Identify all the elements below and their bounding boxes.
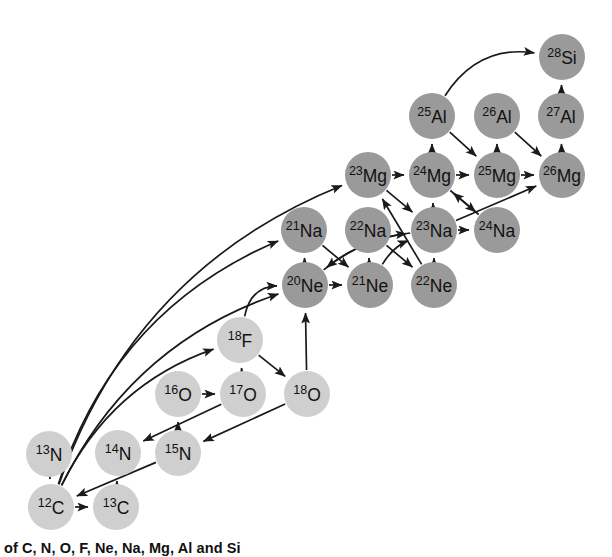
mass-number: 23 [349, 164, 363, 178]
nuclide-node-na23: 23Na [411, 207, 457, 253]
nuclide-node-layer: 12C13C13N14N15N16O17O18O18F20Ne21Ne22Ne2… [26, 34, 585, 530]
nuclide-node-o18: 18O [284, 371, 330, 417]
scan-bleed-artifact-line1 [196, 18, 200, 35]
mass-number: 24 [413, 164, 427, 178]
nuclide-node-na22: 22Na [345, 207, 391, 253]
mass-number: 24 [479, 219, 493, 233]
element-symbol: Na [364, 221, 387, 241]
element-symbol: Na [493, 221, 516, 241]
mass-number: 21 [286, 219, 300, 233]
element-symbol: N [119, 444, 132, 464]
mass-number: 25 [478, 164, 492, 178]
nuclide-node-mg23: 23Mg [345, 152, 391, 198]
mass-number: 22 [416, 274, 430, 288]
element-symbol: Ne [430, 276, 452, 296]
element-symbol: Al [560, 107, 576, 127]
element-symbol: O [178, 385, 192, 405]
element-symbol: O [243, 385, 257, 405]
mass-number: 20 [287, 274, 301, 288]
reaction-arrow [515, 132, 541, 156]
nuclide-node-n13: 13N [26, 431, 72, 477]
mass-number: 27 [546, 105, 560, 119]
element-symbol: O [307, 385, 321, 405]
mass-number: 14 [105, 442, 119, 456]
element-symbol: F [242, 331, 253, 351]
mass-number: 18 [293, 383, 307, 397]
reaction-arrow [445, 52, 534, 96]
mass-number: 13 [36, 443, 50, 457]
element-symbol: Ne [301, 276, 323, 296]
nuclide-node-mg26: 26Mg [539, 152, 585, 198]
reaction-arrow [386, 190, 412, 212]
reaction-network-diagram: 12C13C13N14N15N16O17O18O18F20Ne21Ne22Ne2… [0, 0, 612, 557]
nuclide-node-mg24: 24Mg [409, 152, 455, 198]
reaction-arrow [450, 191, 475, 212]
nuclide-node-ne21: 21Ne [347, 262, 393, 308]
element-symbol: N [179, 444, 192, 464]
mass-number: 25 [417, 105, 431, 119]
element-symbol: Mg [427, 166, 451, 186]
element-symbol: Si [561, 48, 577, 68]
mass-number: 12 [38, 496, 52, 510]
nuclide-node-al27: 27Al [538, 93, 584, 139]
mass-number: 15 [165, 442, 179, 456]
nuclide-node-na24: 24Na [474, 207, 520, 253]
element-symbol: Mg [363, 166, 387, 186]
mass-number: 23 [416, 219, 430, 233]
scan-bleed-artifact-line2 [214, 40, 218, 57]
mass-number: 26 [543, 164, 557, 178]
figure-caption: of C, N, O, F, Ne, Na, Mg, Al and Si [4, 540, 241, 557]
element-symbol: Na [430, 221, 453, 241]
nuclide-node-c13: 13C [93, 484, 139, 530]
mass-number: 26 [482, 105, 496, 119]
mass-number: 13 [103, 496, 117, 510]
nuclide-node-ne22: 22Ne [411, 262, 457, 308]
element-symbol: Al [496, 107, 512, 127]
mass-number: 18 [228, 329, 242, 343]
nuclide-node-o17: 17O [220, 371, 266, 417]
element-symbol: Al [431, 107, 447, 127]
element-symbol: N [50, 445, 63, 465]
reaction-arrow [450, 132, 476, 156]
nuclide-node-mg25: 25Mg [474, 152, 520, 198]
nuclide-node-c12: 12C [28, 484, 74, 530]
mass-number: 17 [229, 383, 243, 397]
reaction-arrow [259, 355, 286, 376]
element-symbol: Mg [557, 166, 581, 186]
reaction-arrow [386, 245, 412, 267]
element-symbol: Na [300, 221, 323, 241]
mass-number: 28 [547, 46, 561, 60]
mass-number: 22 [350, 219, 364, 233]
element-symbol: C [52, 498, 65, 518]
mass-number: 21 [352, 274, 366, 288]
element-symbol: Ne [366, 276, 388, 296]
nuclide-node-n15: 15N [155, 430, 201, 476]
element-symbol: Mg [492, 166, 516, 186]
nuclide-node-al26: 26Al [474, 93, 520, 139]
element-symbol: C [117, 498, 130, 518]
nuclide-node-ne20: 20Ne [282, 262, 328, 308]
reaction-arrow [322, 245, 348, 267]
reaction-arrow [306, 313, 307, 370]
nuclide-node-o16: 16O [155, 371, 201, 417]
nuclide-node-na21: 21Na [281, 207, 327, 253]
nuclide-node-al25: 25Al [409, 93, 455, 139]
nuclide-node-f18: 18F [217, 317, 263, 363]
nuclide-node-n14: 14N [95, 430, 141, 476]
mass-number: 16 [164, 383, 178, 397]
nuclide-node-si28: 28Si [539, 34, 585, 80]
